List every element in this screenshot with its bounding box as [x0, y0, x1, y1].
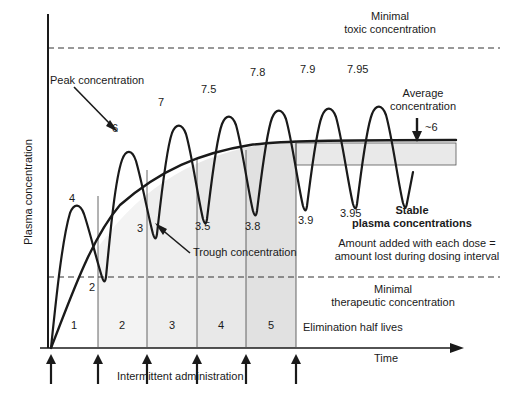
- intermittent-administration-label: Intermittent administration: [117, 370, 244, 383]
- chart-canvas: [0, 0, 516, 396]
- half-life-band-label-5: 5: [268, 319, 274, 332]
- stable-plasma-note: Amount added with each dose = amount los…: [328, 237, 506, 263]
- average-concentration-line2: concentration: [378, 100, 468, 113]
- half-life-band-5: [246, 118, 296, 348]
- trough-concentration-label: Trough concentration: [193, 246, 297, 259]
- stable-plasma-line1: Stable: [352, 204, 472, 217]
- half-life-band-label-1: 1: [71, 319, 77, 332]
- peak-label-6: 7.9: [300, 63, 315, 76]
- stable-plasma-title: Stable plasma concentrations: [352, 204, 472, 230]
- average-concentration-label: Average concentration: [378, 87, 468, 113]
- elimination-half-lives-label: Elimination half lives: [303, 321, 403, 334]
- stable-plasma-line2: plasma concentrations: [352, 217, 472, 230]
- minimal-therapeutic-line2: therapeutic concentration: [318, 296, 468, 309]
- minimal-toxic-line1: Minimal: [330, 10, 450, 23]
- average-concentration-band: [296, 143, 456, 165]
- average-concentration-line1: Average: [378, 87, 468, 100]
- peak-label-4: 7.5: [201, 83, 216, 96]
- average-concentration-value: ~6: [425, 121, 438, 134]
- dose-arrow: [291, 354, 301, 384]
- minimal-toxic-line2: toxic concentration: [330, 23, 450, 36]
- y-axis-label: Plasma concentration: [22, 139, 34, 245]
- peak-concentration-label: Peak concentration: [50, 74, 144, 87]
- half-life-band-label-2: 2: [119, 319, 125, 332]
- dose-arrow: [46, 354, 56, 384]
- trough-label-5: 3.9: [298, 214, 313, 227]
- trough-label-1: 2: [89, 281, 95, 294]
- minimal-therapeutic-concentration-label: Minimal therapeutic concentration: [318, 283, 468, 309]
- pharmacokinetics-figure: Plasma concentration Time Minimal toxic …: [0, 0, 516, 396]
- minimal-toxic-concentration-label: Minimal toxic concentration: [330, 10, 450, 36]
- peak-label-3: 7: [158, 96, 164, 109]
- peak-label-7: 7.95: [347, 63, 368, 76]
- trough-label-3: 3.5: [195, 220, 210, 233]
- trough-label-6: 3.95: [340, 207, 361, 220]
- trough-label-2: 3: [137, 222, 143, 235]
- half-life-band-label-3: 3: [169, 319, 175, 332]
- average-concentration-pointer: [412, 118, 422, 142]
- x-axis-arrowhead: [450, 343, 464, 353]
- stable-plasma-note-line2: amount lost during dosing interval: [328, 250, 506, 263]
- stable-plasma-note-line1: Amount added with each dose =: [328, 237, 506, 250]
- dose-arrow: [93, 354, 103, 384]
- peak-label-1: 4: [69, 192, 75, 205]
- peak-label-2: 6: [112, 122, 118, 135]
- half-life-band-label-4: 4: [218, 319, 224, 332]
- x-axis-label: Time: [374, 352, 398, 365]
- peak-label-5: 7.8: [250, 66, 265, 79]
- minimal-therapeutic-line1: Minimal: [318, 283, 468, 296]
- trough-label-4: 3.8: [245, 220, 260, 233]
